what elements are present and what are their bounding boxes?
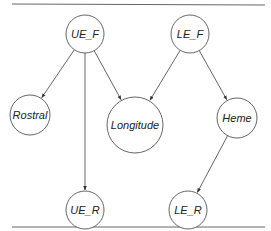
edge-le_f-to-longitude	[150, 50, 180, 100]
node-le-r: LE_R	[169, 191, 207, 229]
node-label: LE_F	[177, 28, 205, 40]
edge-ue_f-to-rostral	[42, 50, 75, 98]
node-ue-r: UE_R	[66, 191, 104, 229]
node-label: UE_R	[70, 204, 99, 216]
node-rostral: Rostral	[10, 95, 50, 135]
nodes: UE_FLE_FRostralLongitudeHemeUE_RLE_R	[10, 15, 257, 229]
node-ue-f: UE_F	[66, 15, 104, 53]
node-label: Heme	[222, 112, 251, 124]
node-longitude: Longitude	[107, 97, 163, 153]
edge-ue_f-to-longitude	[94, 51, 121, 100]
node-label: UE_F	[71, 28, 100, 40]
edge-le_f-to-heme	[199, 51, 226, 100]
top-rule	[12, 4, 265, 5]
edge-heme-to-le_r	[197, 136, 227, 193]
node-le-f: LE_F	[171, 15, 209, 53]
node-label: Longitude	[111, 119, 159, 131]
node-label: Rostral	[13, 109, 48, 121]
diagram-canvas: UE_FLE_FRostralLongitudeHemeUE_RLE_R	[0, 0, 271, 231]
node-heme: Heme	[217, 98, 257, 138]
node-label: LE_R	[174, 204, 202, 216]
